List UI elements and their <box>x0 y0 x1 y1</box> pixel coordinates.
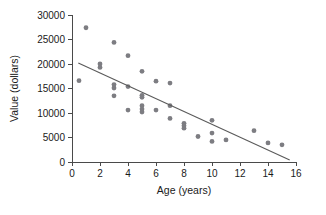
data-point <box>182 126 187 131</box>
data-point <box>84 25 89 30</box>
data-point <box>154 108 159 113</box>
data-point <box>252 128 257 133</box>
data-point <box>126 53 131 58</box>
x-tick-label: 8 <box>181 168 187 179</box>
x-tick-label: 14 <box>262 168 274 179</box>
data-point <box>112 86 117 91</box>
y-tick-label: 10000 <box>37 108 65 119</box>
plot-area: 050001000015000200002500030000 024681012… <box>0 0 326 215</box>
y-tick-label: 20000 <box>37 59 65 70</box>
y-tick-label: 30000 <box>37 10 65 21</box>
scatter-chart: 050001000015000200002500030000 024681012… <box>0 0 326 215</box>
data-point <box>196 134 201 139</box>
data-point <box>77 78 82 83</box>
data-point <box>266 140 271 145</box>
x-tick-label: 6 <box>153 168 159 179</box>
trend-line <box>78 63 289 160</box>
data-point <box>112 40 117 45</box>
x-tick-label: 10 <box>206 168 218 179</box>
x-tick-label: 16 <box>290 168 302 179</box>
x-axis-ticks: 0246810121416 <box>69 162 302 179</box>
data-point <box>140 95 145 100</box>
y-axis-title: Value (dollars) <box>8 55 20 122</box>
data-point <box>210 118 215 123</box>
data-point <box>112 93 117 98</box>
y-tick-label: 5000 <box>43 132 66 143</box>
data-point <box>280 142 285 147</box>
data-point <box>168 81 173 86</box>
y-tick-label: 25000 <box>37 34 65 45</box>
data-point <box>210 139 215 144</box>
y-axis-ticks: 050001000015000200002500030000 <box>37 10 72 168</box>
data-points <box>77 25 285 147</box>
y-tick-label: 15000 <box>37 83 65 94</box>
x-axis-title: Age (years) <box>157 184 211 196</box>
data-point <box>98 65 103 70</box>
data-point <box>168 116 173 121</box>
x-tick-label: 12 <box>234 168 246 179</box>
data-point <box>210 131 215 136</box>
data-point <box>140 69 145 74</box>
data-point <box>126 108 131 113</box>
x-tick-label: 0 <box>69 168 75 179</box>
y-tick-label: 0 <box>59 157 65 168</box>
x-tick-label: 2 <box>97 168 103 179</box>
x-tick-label: 4 <box>125 168 131 179</box>
data-point <box>224 138 229 143</box>
data-point <box>140 110 145 115</box>
data-point <box>154 79 159 84</box>
